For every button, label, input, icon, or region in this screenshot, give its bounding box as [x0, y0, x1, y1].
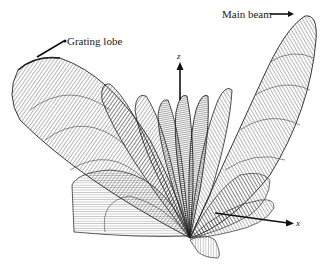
grating-lobe-label: Grating lobe: [67, 36, 122, 47]
x-axis-label: x: [296, 219, 300, 228]
grating-lobe-pointer: [37, 40, 67, 58]
radiation-pattern-diagram: Grating lobe Main beam z x: [0, 0, 330, 268]
main-beam-pointer: [270, 11, 294, 17]
z-axis-label: z: [177, 52, 181, 61]
pattern-svg: [0, 0, 330, 268]
main-beam-label: Main beam: [222, 9, 272, 20]
z-axis: [177, 62, 184, 100]
